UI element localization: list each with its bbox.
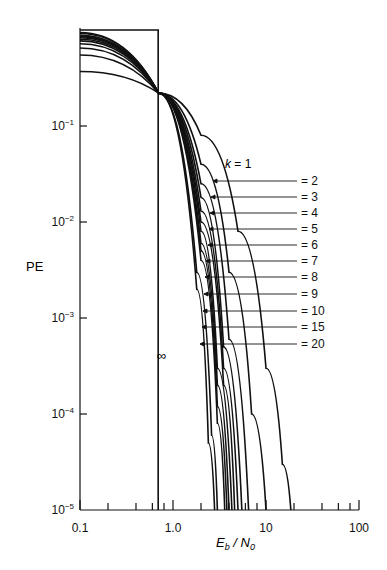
arrow-icon bbox=[200, 342, 204, 346]
series-label: = 9 bbox=[301, 287, 318, 301]
curve-k-20 bbox=[80, 33, 215, 510]
y-tick-label: 10−2 bbox=[52, 214, 75, 229]
x-tick-label: 10 bbox=[259, 521, 273, 535]
x-axis-title: Eb / N0 bbox=[216, 535, 255, 552]
arrow-icon bbox=[205, 275, 209, 279]
y-tick-label: 10−4 bbox=[52, 406, 75, 421]
curve-k-5 bbox=[80, 41, 238, 510]
y-tick-label: 10−1 bbox=[52, 118, 75, 133]
x-tick-label: 0.1 bbox=[72, 521, 89, 535]
arrow-icon bbox=[211, 195, 215, 199]
series-label: = 3 bbox=[301, 190, 318, 204]
series-label-k1: k = 1 bbox=[225, 157, 252, 171]
series-label: = 7 bbox=[301, 254, 318, 268]
y-tick-label: 10−5 bbox=[52, 502, 75, 517]
curve-k-15 bbox=[80, 33, 217, 510]
series-label: = 10 bbox=[301, 304, 325, 318]
axes bbox=[80, 28, 359, 510]
x-tick-label: 1.0 bbox=[165, 521, 182, 535]
texts: 0.11.01010010−110−210−310−410−5= 2= 3= 4… bbox=[52, 118, 370, 535]
arrow-icon bbox=[204, 292, 208, 296]
y-tick-label: 10−3 bbox=[52, 310, 75, 325]
y-axis-title: PE bbox=[26, 259, 44, 274]
series-label: = 20 bbox=[301, 337, 325, 351]
chart: 0.11.01010010−110−210−310−410−5= 2= 3= 4… bbox=[0, 0, 387, 570]
arrow-icon bbox=[203, 309, 207, 313]
curves bbox=[80, 30, 291, 510]
series-label: = 2 bbox=[301, 174, 318, 188]
series-label: = 8 bbox=[301, 270, 318, 284]
infinity-label: ∞ bbox=[157, 348, 166, 363]
x-tick-label: 100 bbox=[349, 521, 369, 535]
curve-k-9 bbox=[80, 36, 227, 510]
series-label: = 6 bbox=[301, 238, 318, 252]
curve-k-inf bbox=[80, 30, 158, 510]
series-label: = 15 bbox=[301, 320, 325, 334]
series-label: = 4 bbox=[301, 206, 318, 220]
curve-k-10 bbox=[80, 35, 225, 510]
arrow-icon bbox=[210, 211, 214, 215]
arrow-icon bbox=[208, 243, 212, 247]
series-label: = 5 bbox=[301, 222, 318, 236]
